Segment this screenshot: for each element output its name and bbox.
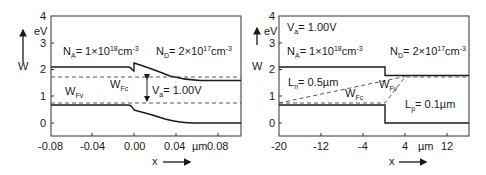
- va-label: Va= 1.00V: [152, 84, 202, 98]
- y-tick: 0: [269, 117, 275, 129]
- y-axis-unit: eV: [264, 25, 278, 37]
- na-label: NA= 1×1018cm-3: [287, 45, 363, 59]
- nd-label: ND= 2×1017cm-3: [390, 45, 466, 59]
- x-axis-label: x: [389, 155, 395, 167]
- nd-label: ND= 2×1017cm-3: [156, 45, 232, 59]
- y-tick: 1: [269, 90, 275, 102]
- x-tick: -0.04: [80, 140, 105, 152]
- band-diagram-figure: W eV 0 1 2 3 4 -0.08 -0.04 0.00 0.04 µm …: [0, 0, 486, 175]
- wfc-label: WFc: [110, 78, 129, 92]
- x-tick: -20: [271, 140, 287, 152]
- plot-frame: [51, 16, 241, 136]
- x-tick: 0.00: [124, 140, 145, 152]
- x-tick: -4: [358, 140, 368, 152]
- wfv-label: WFv: [65, 85, 84, 99]
- x-tick: -12: [313, 140, 329, 152]
- left-chart: W eV 0 1 2 3 4 -0.08 -0.04 0.00 0.04 µm …: [18, 10, 241, 167]
- x-tick: -0.08: [38, 140, 63, 152]
- y-tick: 3: [269, 37, 275, 49]
- y-tick: 1: [40, 90, 46, 102]
- x-tick: 12: [441, 140, 453, 152]
- y-axis-unit: eV: [34, 25, 48, 37]
- y-tick: 4: [269, 10, 275, 22]
- y-tick: 2: [269, 63, 275, 75]
- na-label: NA= 1×1018cm-3: [63, 45, 139, 59]
- y-tick: 0: [40, 117, 46, 129]
- x-tick: 0.08: [207, 140, 228, 152]
- lp-label: Lp= 0.1µm: [405, 98, 455, 113]
- right-chart: W eV 0 1 2 3 4 -20 -12 -4 4 µm 12 x Va= …: [252, 10, 469, 167]
- conduction-band-curve: [279, 67, 469, 76]
- conduction-band-curve: [51, 63, 241, 81]
- ln-label: Ln= 0.5µm: [288, 76, 338, 90]
- x-axis-label: x: [152, 155, 158, 167]
- va-label: Va= 1.00V: [287, 21, 337, 35]
- y-tick: 2: [40, 63, 46, 75]
- wfv-label: WFv: [379, 78, 398, 92]
- x-tick: 4: [402, 140, 408, 152]
- y-tick: 4: [40, 10, 46, 22]
- x-unit: µm: [192, 140, 208, 152]
- y-axis-label: W: [18, 60, 29, 72]
- x-tick: 0.04: [164, 140, 185, 152]
- y-tick: 3: [40, 37, 46, 49]
- y-axis-label: W: [252, 60, 263, 72]
- wfc-label: WFc: [345, 87, 364, 101]
- valence-band-curve: [51, 105, 241, 123]
- x-unit: µm: [418, 140, 434, 152]
